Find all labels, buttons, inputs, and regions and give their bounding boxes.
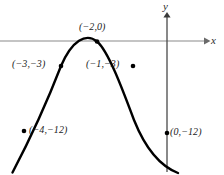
x-axis-arrow-icon bbox=[204, 38, 211, 45]
point-marker-right-low bbox=[165, 131, 170, 136]
parabola-graph-figure: x y (−2,0) (−3,−3) (−1,−3) (−4,−12) (0,−… bbox=[0, 0, 224, 175]
point-label-left-low: (−4,−12) bbox=[29, 124, 67, 135]
point-label-left-mid: (−3,−3) bbox=[12, 58, 45, 69]
point-label-right-low: (0,−12) bbox=[170, 126, 202, 137]
x-axis-label: x bbox=[211, 34, 216, 46]
point-label-vertex: (−2,0) bbox=[79, 21, 106, 32]
point-marker-vertex bbox=[95, 39, 100, 44]
point-marker-left-mid bbox=[59, 64, 64, 69]
y-axis-label: y bbox=[163, 0, 168, 12]
graph-canvas bbox=[0, 0, 224, 175]
point-marker-right-mid bbox=[131, 64, 136, 69]
x-axis bbox=[0, 38, 211, 45]
y-axis bbox=[163, 12, 170, 172]
y-axis-arrow-icon bbox=[163, 12, 170, 18]
point-label-right-mid: (−1,−3) bbox=[86, 58, 119, 69]
point-marker-left-low bbox=[22, 129, 27, 134]
